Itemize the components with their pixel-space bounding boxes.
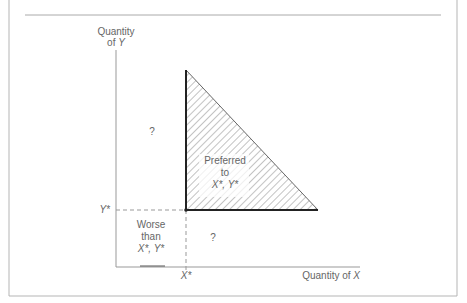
- preferred-label-line2: to: [221, 167, 230, 178]
- region-upper-left-question: ?: [149, 126, 155, 137]
- worse-label-line3: X*, Y*: [137, 243, 166, 254]
- y-axis-label-line1: Quantity: [97, 26, 134, 37]
- worse-label-line1: Worse: [137, 219, 166, 230]
- preferred-label-line1: Preferred: [204, 155, 246, 166]
- preferred-label-line3: X*, Y*: [211, 179, 240, 190]
- worse-label-line2: than: [141, 231, 160, 242]
- region-lower-right-question: ?: [210, 232, 216, 243]
- y-star-label: Y*: [99, 204, 111, 215]
- bundle-point: [184, 208, 188, 212]
- y-axis-label-line2: of Y: [107, 37, 126, 48]
- x-axis-label: Quantity of X: [302, 270, 360, 281]
- diagram-canvas: Quantity of Y Quantity of X X* Y* ? ? Pr…: [0, 0, 467, 303]
- x-star-label: X*: [180, 270, 193, 281]
